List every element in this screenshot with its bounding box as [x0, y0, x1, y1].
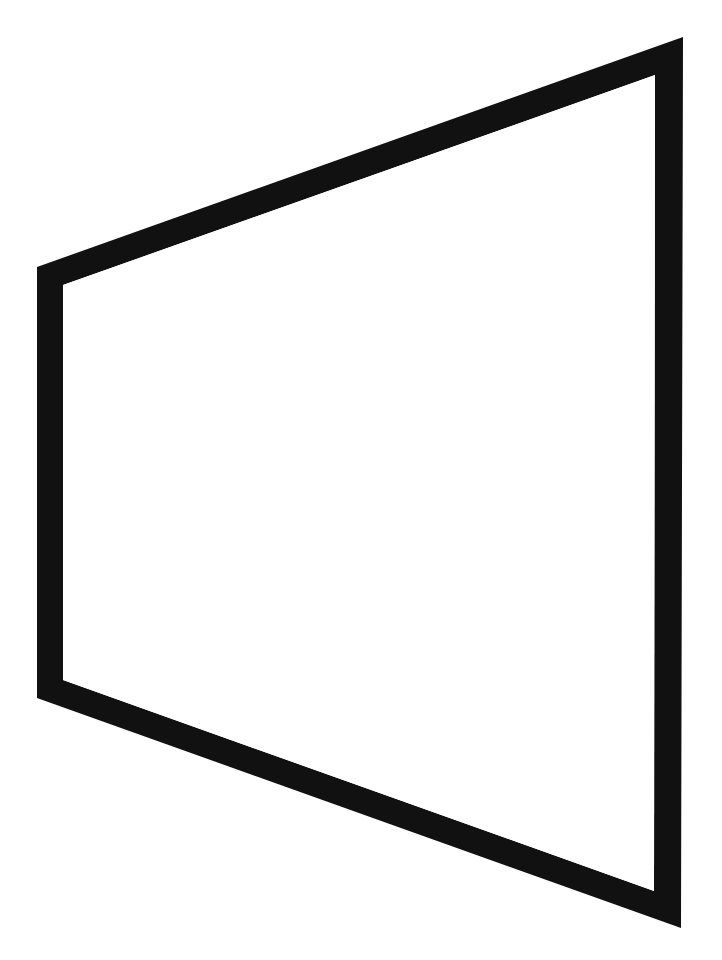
canvas — [0, 0, 722, 960]
